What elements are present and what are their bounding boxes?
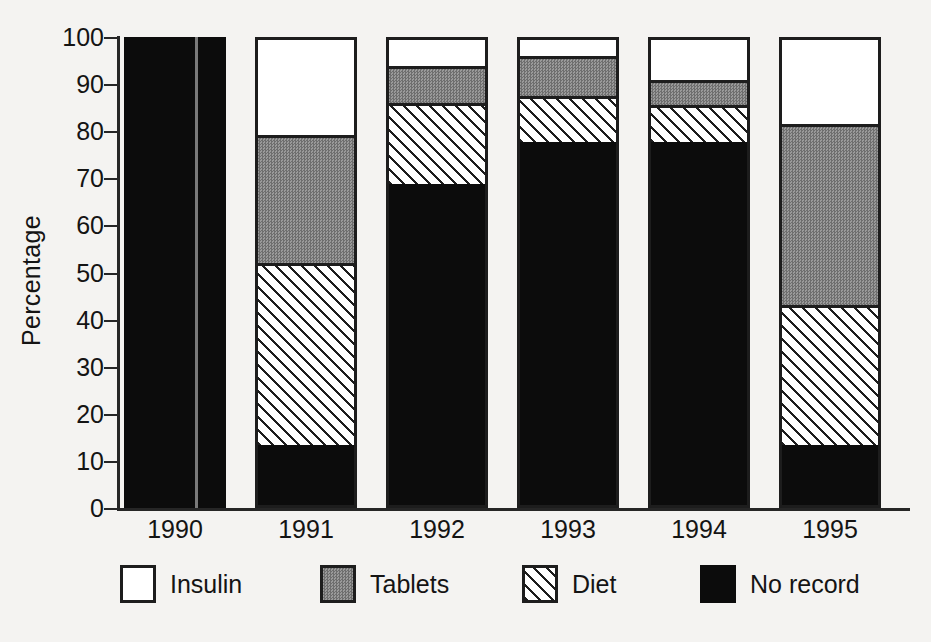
y-tick-mark [104,273,118,275]
segment-diet [389,103,485,184]
white-swatch-icon [120,565,156,603]
bar-1993[interactable] [517,37,619,508]
segment-tablets [782,124,878,305]
y-tick-label: 90 [44,70,104,99]
legend-item-tablets[interactable]: Tablets [320,565,449,603]
segment-no-record [651,142,747,505]
hatched-swatch-icon [522,565,558,603]
y-tick-mark [104,225,118,227]
gray-swatch-icon [320,565,356,603]
legend-label-tablets: Tablets [370,570,449,599]
y-tick-label: 0 [44,494,104,523]
x-tick-label-1993: 1993 [498,515,638,544]
segment-tablets [520,56,616,96]
legend-label-diet: Diet [572,570,616,599]
y-tick-label: 10 [44,447,104,476]
y-tick-label: 80 [44,117,104,146]
y-tick-mark [104,320,118,322]
x-tick-label-1995: 1995 [760,515,900,544]
y-tick-mark [104,461,118,463]
bar-1992[interactable] [386,37,488,508]
y-tick-label: 60 [44,211,104,240]
y-tick-label: 100 [44,23,104,52]
y-tick-mark [104,131,118,133]
legend-label-insulin: Insulin [170,570,242,599]
segment-no-record [258,445,354,505]
legend-item-insulin[interactable]: Insulin [120,565,242,603]
segment-no-record [520,142,616,505]
segment-tablets [389,66,485,103]
y-tick-label: 20 [44,400,104,429]
x-axis-line [117,508,910,511]
segment-diet [520,96,616,143]
segment-no-record [389,184,485,505]
y-tick-label: 50 [44,259,104,288]
y-axis-ticks: 100 90 80 70 60 50 40 30 20 10 0 [34,0,104,642]
x-tick-label-1994: 1994 [629,515,769,544]
legend-item-diet[interactable]: Diet [522,565,616,603]
y-tick-label: 30 [44,353,104,382]
y-tick-mark [104,178,118,180]
segment-tablets [651,80,747,106]
scan-artifact-line [195,37,198,508]
x-tick-label-1991: 1991 [236,515,376,544]
segment-insulin [258,40,354,135]
y-tick-label: 70 [44,164,104,193]
bar-1990[interactable] [124,37,226,508]
chart-legend: Insulin Tablets Diet No record [0,565,931,620]
black-swatch-icon [700,565,736,603]
chart-figure: Percentage 100 90 80 70 60 50 40 30 20 1… [0,0,931,642]
segment-insulin [389,40,485,66]
y-tick-mark [104,414,118,416]
y-tick-mark [104,84,118,86]
segment-insulin [520,40,616,56]
segment-insulin [782,40,878,124]
legend-label-no-record: No record [750,570,860,599]
y-tick-mark [104,367,118,369]
segment-diet [258,263,354,444]
segment-no-record [124,37,226,508]
segment-diet [651,105,747,142]
segment-diet [782,305,878,445]
legend-item-no-record[interactable]: No record [700,565,860,603]
y-tick-label: 40 [44,306,104,335]
bar-1994[interactable] [648,37,750,508]
segment-no-record [782,445,878,505]
y-tick-mark [104,508,118,510]
segment-tablets [258,135,354,263]
bar-1995[interactable] [779,37,881,508]
segment-insulin [651,40,747,80]
bar-1991[interactable] [255,37,357,508]
y-tick-mark [104,37,118,39]
x-tick-label-1992: 1992 [367,515,507,544]
x-tick-label-1990: 1990 [105,515,245,544]
plot-area [118,37,908,508]
